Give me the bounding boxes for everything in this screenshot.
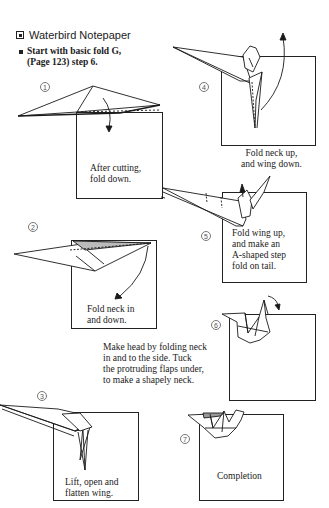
step-6-caption-line: in and to the side. Tuck xyxy=(103,353,207,364)
step-2-caption-line: and down. xyxy=(87,315,135,326)
step-3-number: 3 xyxy=(37,391,47,401)
page-title: Waterbird Notepaper xyxy=(16,29,131,41)
step-7-caption-line: Completion xyxy=(217,471,262,482)
boxed-square-icon xyxy=(16,31,24,39)
intro-instructions: Start with basic fold G, (Page 123) step… xyxy=(19,46,121,68)
step-4-paper xyxy=(221,56,316,146)
page-title-text: Waterbird Notepaper xyxy=(29,29,131,41)
step-5-caption-line: A-shaped step xyxy=(232,250,286,261)
intro-line-2: (Page 123) step 6. xyxy=(19,57,121,68)
step-1-paper xyxy=(76,112,163,199)
step-4-caption: Fold neck up, and wing down. xyxy=(241,148,302,170)
step-4-caption-line: Fold neck up, xyxy=(241,148,302,159)
step-2-number: 2 xyxy=(28,222,38,232)
step-6-number: 6 xyxy=(211,320,221,330)
step-4-number: 4 xyxy=(199,82,209,92)
step-2-caption-line: Fold neck in xyxy=(87,304,135,315)
intro-line-1: Start with basic fold G, xyxy=(27,46,121,56)
step-1-number: 1 xyxy=(40,82,50,92)
step-5-caption-line: and make an xyxy=(232,239,286,250)
step-2-caption: Fold neck in and down. xyxy=(87,304,135,326)
step-5-number: 5 xyxy=(201,231,211,241)
step-4-caption-line: and wing down. xyxy=(241,159,302,170)
step-7-caption: Completion xyxy=(217,471,262,482)
step-1-caption-line: After cutting, xyxy=(90,163,141,174)
step-6-paper xyxy=(229,314,316,401)
step-1-caption: After cutting, fold down. xyxy=(90,163,141,185)
step-5-caption-line: Fold wing up, xyxy=(232,228,286,239)
step-1-caption-line: fold down. xyxy=(90,174,141,185)
step-3-caption-line: flatten wing. xyxy=(65,488,119,499)
step-6-caption-line: Make head by folding neck xyxy=(103,342,207,353)
step-7-paper xyxy=(199,414,284,501)
step-6-caption-line: the protruding flaps under, xyxy=(103,364,207,375)
step-5-caption-line: fold on tail. xyxy=(232,261,286,272)
step-6-caption-line: to make a shapely neck. xyxy=(103,375,207,386)
step-3-caption-line: Lift, open and xyxy=(65,477,119,488)
step-5-caption: Fold wing up, and make an A-shaped step … xyxy=(232,228,286,272)
step-6-caption: Make head by folding neck in and to the … xyxy=(103,342,207,386)
step-3-caption: Lift, open and flatten wing. xyxy=(65,477,119,499)
step-7-number: 7 xyxy=(180,434,190,444)
bullet-icon xyxy=(19,50,23,54)
